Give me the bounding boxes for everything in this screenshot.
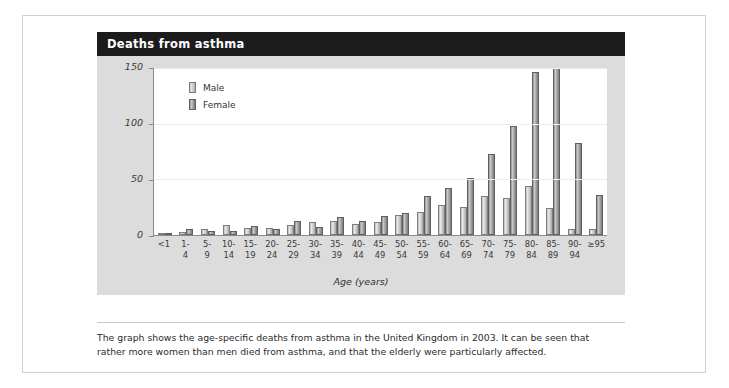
y-axis-tick-label: 0	[137, 229, 143, 240]
x-axis-tick-label: 20-24	[261, 239, 283, 267]
y-axis-tick-mark	[149, 124, 154, 125]
page-title: Deaths from asthma	[107, 37, 245, 51]
bar-group	[435, 68, 457, 235]
bar-group	[370, 68, 392, 235]
bar-male	[481, 196, 488, 235]
x-axis-tick-label: 75-79	[499, 239, 521, 267]
x-axis-tick-label: 15-19	[240, 239, 262, 267]
gridline	[154, 179, 607, 180]
bar-male	[503, 198, 510, 235]
bar-group	[586, 68, 608, 235]
bar-female	[165, 233, 172, 235]
bar-group	[564, 68, 586, 235]
bar-group	[413, 68, 435, 235]
bar-group	[283, 68, 305, 235]
x-axis-tick-label: 70-74	[477, 239, 499, 267]
bar-male	[330, 221, 337, 235]
bar-male	[460, 207, 467, 235]
x-axis-tick-label: 65-69	[456, 239, 478, 267]
x-axis-tick-label: 45-49	[369, 239, 391, 267]
x-axis-tick-label: ≥95	[586, 239, 608, 267]
bar-group	[521, 68, 543, 235]
bar-female	[273, 229, 280, 235]
bar-male	[438, 205, 445, 235]
legend-item-male: Male	[189, 82, 236, 93]
bar-male	[417, 212, 424, 235]
x-axis-tick-label: 5-9	[196, 239, 218, 267]
x-axis-tick-label: 80-84	[521, 239, 543, 267]
bar-group	[348, 68, 370, 235]
x-axis-tick-label: 55-59	[413, 239, 435, 267]
bar-male	[179, 232, 186, 235]
x-axis-tick-label: 25-29	[283, 239, 305, 267]
x-axis-title: Age (years)	[97, 276, 625, 287]
x-axis-tick-label: 50-54	[391, 239, 413, 267]
bar-group	[478, 68, 500, 235]
bar-female	[553, 68, 560, 235]
bar-male	[244, 228, 251, 235]
x-axis-tick-label: <1	[153, 239, 175, 267]
x-axis-tick-label: 30-34	[304, 239, 326, 267]
x-axis-tick-labels: <1 1-45-910-1415-1920-2425-2930-3435-394…	[153, 239, 607, 267]
gridline	[154, 124, 607, 125]
x-axis-tick-label: 1-4	[175, 239, 197, 267]
bar-female	[230, 231, 237, 235]
bar-group	[262, 68, 284, 235]
page-frame: Deaths from asthma 050100150 Male Female…	[22, 15, 706, 373]
legend-item-female: Female	[189, 99, 236, 110]
y-axis-tick-mark	[149, 68, 154, 69]
bar-female	[359, 221, 366, 235]
y-axis-tick-label: 150	[125, 61, 143, 72]
bar-female	[510, 126, 517, 235]
card-header: Deaths from asthma	[97, 32, 625, 56]
bar-group	[542, 68, 564, 235]
bar-male	[568, 229, 575, 235]
bar-female	[186, 229, 193, 235]
bar-group	[327, 68, 349, 235]
x-axis-tick-label: 10-14	[218, 239, 240, 267]
bar-female	[381, 216, 388, 235]
bar-female	[467, 178, 474, 235]
bar-group	[154, 68, 176, 235]
bar-male	[546, 208, 553, 235]
bar-group	[456, 68, 478, 235]
bar-male	[309, 222, 316, 235]
caption-divider	[97, 322, 625, 323]
bar-male	[287, 225, 294, 235]
bar-male	[223, 225, 230, 235]
bar-male	[589, 229, 596, 235]
gridline	[154, 68, 607, 69]
bar-female	[208, 231, 215, 235]
y-axis-tick-mark	[149, 236, 154, 237]
bar-group	[499, 68, 521, 235]
bar-female	[316, 227, 323, 235]
legend-swatch-female-icon	[189, 99, 196, 110]
bar-female	[596, 195, 603, 235]
bar-group	[391, 68, 413, 235]
bar-female	[251, 226, 258, 235]
y-axis-tick-mark	[149, 180, 154, 181]
bar-female	[488, 154, 495, 235]
y-axis-tick-label: 50	[131, 173, 143, 184]
x-axis-tick-label: 90-94	[564, 239, 586, 267]
x-axis-tick-label: 35-39	[326, 239, 348, 267]
bar-group	[305, 68, 327, 235]
bar-female	[445, 188, 452, 235]
bar-female	[402, 213, 409, 235]
x-axis-tick-label: 40-44	[348, 239, 370, 267]
x-axis-tick-label: 60-64	[434, 239, 456, 267]
bar-male	[352, 224, 359, 235]
legend: Male Female	[189, 82, 236, 116]
legend-label-female: Female	[203, 100, 236, 110]
bar-group	[240, 68, 262, 235]
legend-label-male: Male	[203, 83, 224, 93]
bar-female	[294, 221, 301, 235]
bar-female	[424, 196, 431, 235]
bar-male	[266, 228, 273, 235]
bar-male	[201, 229, 208, 235]
chart-card: Deaths from asthma 050100150 Male Female…	[97, 32, 625, 317]
x-axis-tick-label: 85-89	[542, 239, 564, 267]
y-axis-tick-label: 100	[125, 117, 143, 128]
chart-area: 050100150 Male Female <1 1-45-910-1415-1…	[97, 56, 625, 295]
bar-male	[395, 215, 402, 235]
